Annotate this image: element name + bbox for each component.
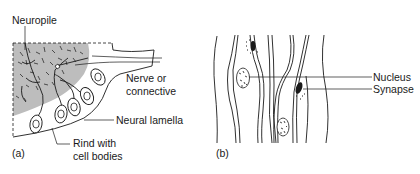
nerve-axon (92, 56, 162, 58)
panel-b-nuclei (237, 68, 290, 136)
label-rind-line1: Rind with (73, 137, 116, 149)
label-nucleus: Nucleus (373, 71, 411, 83)
ganglion-diagram: Neuropile Nerve or connective Neural lam… (0, 0, 420, 174)
panel-a-label: (a) (12, 147, 25, 159)
nerve-connective (112, 43, 154, 66)
label-nerve-line1: Nerve or (126, 72, 167, 84)
label-neural-lamella: Neural lamella (116, 114, 183, 126)
label-nerve-line2: connective (126, 85, 176, 97)
rind-pointer (52, 128, 70, 144)
label-synapse: Synapse (373, 83, 414, 95)
label-rind-line2: cell bodies (73, 150, 123, 162)
panel-b-label: (b) (216, 147, 229, 159)
label-neuropile: Neuropile (12, 14, 57, 26)
